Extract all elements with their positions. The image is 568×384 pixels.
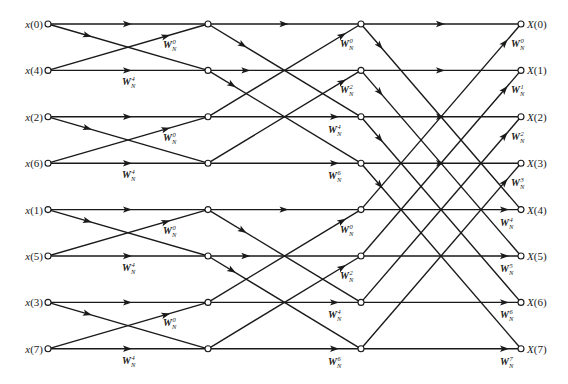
output-label-2: X(2): [526, 111, 547, 124]
arrow-s1-d-6: [82, 310, 92, 319]
stage-2-node: [358, 114, 364, 120]
twiddle-s2-4: W0N: [340, 223, 354, 237]
arrow-s2-d-4: [237, 226, 248, 236]
output-node: [518, 160, 524, 166]
output-node: [518, 207, 524, 213]
input-label-1: x(4): [24, 64, 43, 77]
output-node: [518, 253, 524, 259]
twiddle-s3-0: W0N: [511, 37, 525, 51]
input-label-5: x(5): [24, 250, 43, 263]
output-label-5: X(5): [526, 250, 547, 263]
stage-1-node: [205, 253, 211, 259]
arrow-s2-d-5: [227, 265, 238, 275]
twiddle-s2-3: W6N: [328, 169, 342, 183]
stage-1-node: [205, 299, 211, 305]
input-label-4: x(1): [24, 204, 43, 217]
stage-2-node: [358, 160, 364, 166]
input-label-2: x(2): [24, 111, 43, 124]
twiddle-s1-5: W4N: [122, 261, 136, 275]
arrow-s2-d-0: [237, 40, 248, 50]
twiddle-s1-6: W0N: [163, 316, 177, 330]
input-label-3: x(6): [24, 157, 43, 170]
output-label-0: X(0): [526, 18, 547, 31]
stage-1-node: [205, 160, 211, 166]
output-label-3: X(3): [526, 157, 547, 170]
twiddle-s2-2: W4N: [328, 123, 342, 137]
twiddle-s3-2: W2N: [511, 130, 525, 144]
twiddle-s1-4: W0N: [163, 224, 177, 238]
input-node: [45, 207, 51, 213]
arrow-s2-d-1: [227, 80, 238, 90]
output-label-6: X(6): [526, 296, 547, 309]
arrow-s1-d-4: [82, 217, 92, 226]
twiddle-s2-0: W0N: [340, 37, 354, 51]
stage-2-node: [358, 346, 364, 352]
arrow-s1-d-0: [82, 31, 92, 40]
stage-2-node: [358, 67, 364, 73]
stage-1-node: [205, 67, 211, 73]
stage-2-node: [358, 299, 364, 305]
output-node: [518, 346, 524, 352]
twiddle-s3-4: W4N: [500, 216, 514, 230]
twiddle-s3-7: W7N: [500, 355, 514, 369]
twiddle-s2-7: W6N: [328, 355, 342, 369]
stage-2-node: [358, 207, 364, 213]
edges: [48, 24, 521, 349]
stage-1-node: [205, 207, 211, 213]
twiddle-s2-1: W2N: [340, 83, 354, 97]
input-node: [45, 160, 51, 166]
input-label-0: x(0): [24, 18, 43, 31]
output-node: [518, 114, 524, 120]
input-node: [45, 21, 51, 27]
twiddle-s3-5: W5N: [500, 262, 514, 276]
arrow-s1-d-2: [82, 124, 92, 133]
input-node: [45, 253, 51, 259]
output-label-1: X(1): [526, 64, 547, 77]
output-label-4: X(4): [526, 204, 547, 217]
output-node: [518, 299, 524, 305]
stage-1-node: [205, 21, 211, 27]
output-label-7: X(7): [526, 343, 547, 356]
output-node: [518, 21, 524, 27]
input-node: [45, 114, 51, 120]
twiddle-s2-6: W4N: [328, 308, 342, 322]
twiddle-s1-0: W0N: [163, 38, 177, 52]
twiddle-s1-2: W0N: [163, 131, 177, 145]
twiddle-s2-5: W2N: [340, 269, 354, 283]
twiddle-s1-3: W4N: [122, 168, 136, 182]
input-label-7: x(7): [24, 343, 43, 356]
output-node: [518, 67, 524, 73]
twiddle-s1-7: W4N: [122, 354, 136, 368]
stage-1-node: [205, 114, 211, 120]
input-node: [45, 299, 51, 305]
twiddle-s1-1: W4N: [122, 75, 136, 89]
twiddle-s3-1: W1N: [511, 83, 525, 97]
stage-1-node: [205, 346, 211, 352]
input-label-6: x(3): [24, 296, 43, 309]
fft-butterfly-diagram: W0NW4NW0NW4NW0NW4NW0NW4NW0NW2NW4NW6NW0NW…: [0, 0, 568, 384]
input-node: [45, 67, 51, 73]
twiddle-s3-6: W6N: [500, 308, 514, 322]
twiddle-s3-3: W3N: [511, 176, 525, 190]
stage-2-node: [358, 253, 364, 259]
stage-2-node: [358, 21, 364, 27]
input-node: [45, 346, 51, 352]
